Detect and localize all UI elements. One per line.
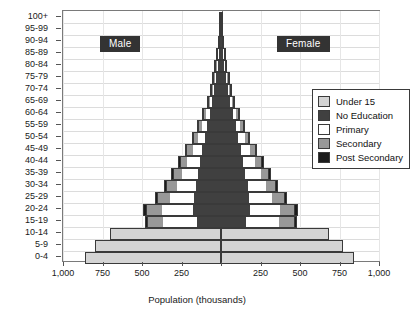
bar-segment-post-secondary bbox=[228, 72, 230, 84]
female-banner: Female bbox=[277, 36, 330, 52]
bar-segment-no-education bbox=[221, 180, 248, 192]
female-bar-20-24 bbox=[221, 204, 298, 216]
male-bar-40-44 bbox=[178, 156, 221, 168]
bar-segment-no-education bbox=[212, 96, 221, 108]
male-bar-5-9 bbox=[95, 240, 221, 252]
bar-segment-primary bbox=[170, 192, 193, 204]
y-tick-label-20-24: 20-24 bbox=[25, 201, 48, 215]
bar-segment-primary bbox=[248, 180, 266, 192]
female-bar-60-64 bbox=[221, 108, 240, 120]
legend-item-primary[interactable]: Primary bbox=[318, 122, 403, 136]
bar-segment-post-secondary bbox=[261, 156, 263, 168]
x-tick-mark bbox=[379, 262, 380, 266]
female-bar-35-39 bbox=[221, 168, 271, 180]
male-bar-50-54 bbox=[192, 132, 221, 144]
male-bar-80-84 bbox=[214, 60, 221, 72]
bar-row bbox=[63, 191, 379, 203]
bar-segment-no-education bbox=[198, 168, 221, 180]
bar-segment-primary bbox=[187, 156, 199, 168]
bar-segment-no-education bbox=[207, 120, 221, 132]
bar-row bbox=[63, 71, 379, 83]
female-bar-100+ bbox=[221, 12, 223, 24]
legend-item-secondary[interactable]: Secondary bbox=[318, 136, 403, 150]
legend-item-post-secondary[interactable]: Post Secondary bbox=[318, 150, 403, 164]
female-bar-90-94 bbox=[221, 36, 224, 48]
bar-segment-post-secondary bbox=[233, 96, 235, 108]
male-bar-35-39 bbox=[171, 168, 221, 180]
legend-item-under-15[interactable]: Under 15 bbox=[318, 94, 403, 108]
male-bar-30-34 bbox=[164, 180, 221, 192]
y-tick-label-95-99: 95-99 bbox=[25, 21, 48, 35]
y-tick-mark bbox=[56, 220, 61, 221]
female-bar-95-99 bbox=[221, 24, 223, 36]
x-tick-mark bbox=[103, 262, 104, 266]
bar-segment-post-secondary bbox=[268, 168, 271, 180]
female-bar-50-54 bbox=[221, 132, 250, 144]
x-tick-mark bbox=[221, 262, 222, 266]
bar-segment-primary bbox=[245, 168, 260, 180]
bar-segment-primary bbox=[198, 132, 205, 144]
x-axis-title: Population (thousands) bbox=[0, 294, 394, 305]
female-bar-25-29 bbox=[221, 192, 287, 204]
bar-segment-secondary bbox=[147, 204, 162, 216]
y-tick-mark bbox=[56, 124, 61, 125]
y-tick-mark bbox=[56, 100, 61, 101]
bar-row bbox=[63, 23, 379, 35]
y-tick-mark bbox=[56, 160, 61, 161]
legend-item-label: Secondary bbox=[336, 138, 381, 149]
female-bar-55-59 bbox=[221, 120, 245, 132]
bar-segment-no-education bbox=[193, 204, 221, 216]
male-bar-0-4 bbox=[85, 252, 221, 264]
y-tick-mark bbox=[56, 136, 61, 137]
bar-segment-secondary bbox=[224, 48, 226, 60]
male-bar-20-24 bbox=[143, 204, 221, 216]
x-tick-mark bbox=[142, 262, 143, 266]
y-tick-label-100+: 100+ bbox=[28, 9, 48, 23]
y-tick-mark bbox=[56, 88, 61, 89]
bar-segment-no-education bbox=[197, 216, 221, 228]
legend-swatch-icon bbox=[318, 96, 330, 107]
female-bar-65-69 bbox=[221, 96, 235, 108]
female-bar-15-19 bbox=[221, 216, 297, 228]
y-tick-mark bbox=[56, 184, 61, 185]
bar-segment-no-education bbox=[221, 108, 233, 120]
x-tick-label: 250 bbox=[174, 268, 189, 278]
bar-segment-no-education bbox=[214, 84, 221, 96]
bar-row bbox=[63, 203, 379, 215]
female-bar-85-89 bbox=[221, 48, 226, 60]
bar-segment-under-15 bbox=[221, 240, 343, 252]
y-tick-label-85-89: 85-89 bbox=[25, 45, 48, 59]
bar-segment-under-15 bbox=[85, 252, 221, 264]
female-bar-10-14 bbox=[221, 228, 329, 240]
legend-swatch-icon bbox=[318, 110, 330, 121]
female-bar-45-49 bbox=[221, 144, 257, 156]
plot-area: Male Female Under 15No EducationPrimaryS… bbox=[62, 10, 380, 262]
y-tick-label-40-44: 40-44 bbox=[25, 153, 48, 167]
male-bar-15-19 bbox=[145, 216, 221, 228]
bar-segment-secondary bbox=[279, 216, 294, 228]
female-bar-30-34 bbox=[221, 180, 278, 192]
y-tick-mark bbox=[56, 244, 61, 245]
bar-segment-secondary bbox=[174, 168, 182, 180]
male-bar-70-74 bbox=[210, 84, 221, 96]
y-tick-label-10-14: 10-14 bbox=[25, 225, 48, 239]
male-bar-60-64 bbox=[202, 108, 221, 120]
legend-swatch-icon bbox=[318, 138, 330, 149]
legend-item-no-education[interactable]: No Education bbox=[318, 108, 403, 122]
male-bar-10-14 bbox=[110, 228, 221, 240]
bar-segment-no-education bbox=[221, 132, 238, 144]
bar-row bbox=[63, 11, 379, 23]
x-tick-label: 250 bbox=[253, 268, 268, 278]
bar-segment-under-15 bbox=[221, 252, 354, 264]
bar-segment-primary bbox=[249, 192, 272, 204]
bar-segment-secondary bbox=[158, 192, 170, 204]
legend-swatch-icon bbox=[318, 152, 330, 163]
y-tick-mark bbox=[56, 232, 61, 233]
bar-segment-no-education bbox=[202, 144, 221, 156]
x-tick-mark bbox=[63, 262, 64, 266]
bar-segment-secondary bbox=[167, 180, 177, 192]
bar-row bbox=[63, 215, 379, 227]
bar-segment-secondary bbox=[261, 168, 269, 180]
y-tick-mark bbox=[56, 112, 61, 113]
y-tick-mark bbox=[56, 52, 61, 53]
